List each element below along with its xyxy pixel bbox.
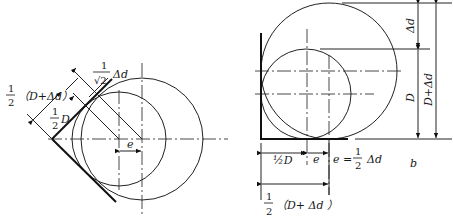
- root2-num: 1: [101, 60, 107, 71]
- extension-line-large: [73, 70, 142, 139]
- label-root2-dd: Δd: [112, 68, 128, 81]
- half-D-den: 2: [52, 120, 58, 131]
- eccentricity-diagram: 1 2 （D+Δd） 1 2 D 1 √2 Δd e Δd: [0, 0, 453, 224]
- label-half-D-plus-dd: （D+Δd）: [18, 90, 73, 103]
- right-diagram: Δd D D+Δd ½D e e = 1 2 Δd b 1 2 （D+ Δd ）: [255, 3, 452, 217]
- label-half-D: D: [60, 113, 70, 126]
- bottom-frac-den: 2: [266, 206, 272, 217]
- label-D-plus-dd: D+Δd: [422, 73, 435, 107]
- figure-tag-b: b: [410, 157, 417, 170]
- frac-denominator: 2: [8, 97, 14, 108]
- label-e-equals: e =: [333, 153, 352, 166]
- label-half-D: ½D: [273, 154, 293, 167]
- e-eq-den: 2: [355, 160, 361, 171]
- e-eq-num: 1: [355, 146, 361, 157]
- extension-line-small: [73, 93, 119, 139]
- left-diagram: 1 2 （D+Δd） 1 2 D 1 √2 Δd e: [6, 60, 228, 214]
- label-e: e: [313, 153, 320, 166]
- label-D: D: [404, 93, 417, 103]
- extension-line-apex: [27, 114, 52, 139]
- label-e-eq-dd: Δd: [366, 153, 382, 166]
- label-bottom-half-D-plus-dd: （D+ Δd ）: [276, 199, 338, 212]
- v-wall-lower: [52, 139, 116, 202]
- root2-den: √2: [94, 75, 107, 86]
- label-e-left: e: [127, 138, 134, 151]
- frac-numerator: 1: [8, 83, 14, 94]
- dimension-half-D-plus-dd: [66, 78, 78, 90]
- label-dd: Δd: [404, 18, 417, 34]
- half-D-num: 1: [52, 106, 58, 117]
- bottom-frac-num: 1: [266, 191, 272, 202]
